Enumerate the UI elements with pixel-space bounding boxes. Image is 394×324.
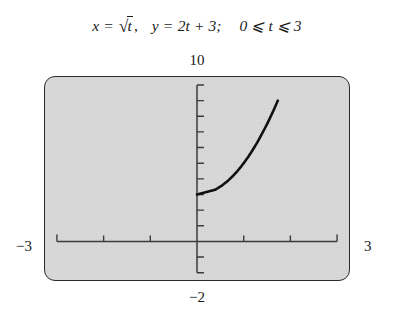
curve-group <box>197 101 278 195</box>
curve-path <box>197 101 278 195</box>
graphing-calculator-screen <box>44 76 350 281</box>
radicand: t <box>127 16 132 34</box>
equation-y-expression: 2t + 3; <box>178 17 222 34</box>
parameter-domain: 0 ⩽ t ⩽ 3 <box>240 17 302 34</box>
equation-y-variable: y <box>152 17 159 34</box>
axes-group <box>57 85 337 273</box>
y-axis-max-label: 10 <box>0 52 394 69</box>
parametric-equation-caption: x = √t, y = 2t + 3; 0 ⩽ t ⩽ 3 <box>0 16 394 36</box>
equation-comma: , <box>133 17 139 34</box>
equation-equals-2: = <box>163 17 174 34</box>
x-axis-min-label: −3 <box>16 238 32 255</box>
square-root-expression: √t <box>118 16 133 36</box>
parametric-plot <box>45 77 349 281</box>
y-axis-min-label: −2 <box>0 289 394 306</box>
x-axis-max-label: 3 <box>364 238 372 255</box>
equation-x-variable: x <box>92 17 99 34</box>
equation-equals-1: = <box>103 17 114 34</box>
